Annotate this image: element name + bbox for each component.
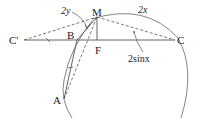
arrow-2y xyxy=(72,12,87,28)
circle-arc-right xyxy=(92,14,188,118)
line-a-b xyxy=(64,40,77,99)
label-2x: 2x xyxy=(138,4,148,15)
geometry-diagram: C' B M F C A 2y 2x 2sinx xyxy=(0,0,202,133)
label-f: F xyxy=(95,44,101,56)
label-2y: 2y xyxy=(61,5,71,16)
label-2sinx: 2sinx xyxy=(128,53,150,64)
label-c-prime: C' xyxy=(9,34,18,46)
dashed-m-c xyxy=(97,17,175,40)
pointer-2sinx xyxy=(134,32,143,52)
tick-mark-a-b xyxy=(68,67,73,68)
label-c: C xyxy=(177,34,184,46)
label-a: A xyxy=(53,94,61,106)
label-m: M xyxy=(92,6,102,18)
label-b: B xyxy=(67,29,74,41)
